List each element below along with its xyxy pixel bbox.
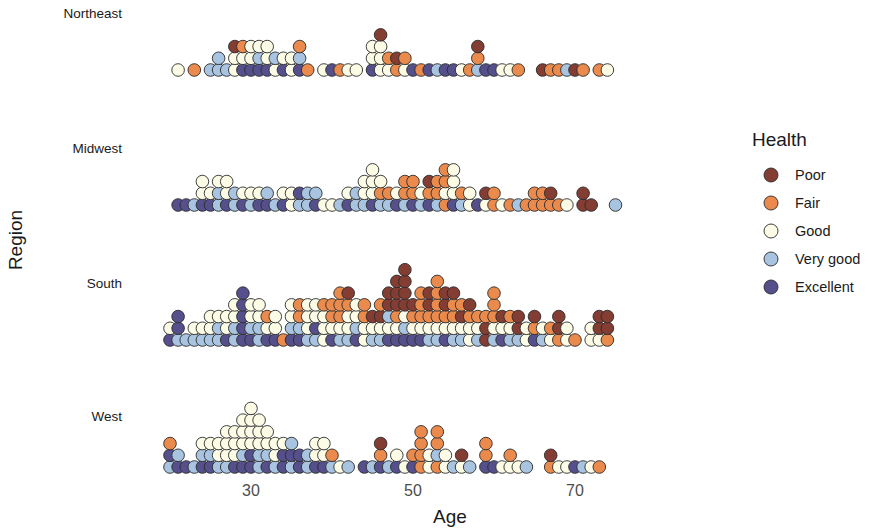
x-axis-title: Age [433, 506, 467, 527]
dot-mark [455, 449, 468, 462]
legend-label: Very good [795, 251, 860, 267]
x-axis-tick-labels: 305070 [242, 482, 584, 499]
legend-label: Fair [795, 195, 820, 211]
dot-mark [601, 310, 614, 323]
dot-mark [318, 437, 331, 450]
y-axis-tick-labels: NortheastMidwestSouthWest [63, 6, 122, 424]
dot-mark [447, 175, 460, 188]
dot-mark [439, 449, 452, 462]
dot-mark [374, 449, 387, 462]
dot-mark [172, 310, 185, 323]
legend-swatch-icon [764, 224, 778, 238]
dot-mark [528, 310, 541, 323]
dot-mark [463, 461, 476, 474]
dot-mark [415, 426, 428, 439]
dot-mark [561, 322, 574, 335]
dot-mark [399, 287, 412, 300]
legend-swatch-icon [764, 168, 778, 182]
dot-plot-chart: NortheastMidwestSouthWest 305070 Age Reg… [0, 0, 873, 531]
legend-item-very-good[interactable]: Very good [764, 251, 860, 267]
dot-mark [472, 52, 485, 65]
dot-mark [342, 287, 355, 300]
dot-mark [488, 287, 501, 300]
dot-mark [480, 449, 493, 462]
dot-mark [374, 40, 387, 53]
dot-stack-group-south [164, 263, 614, 346]
dot-mark [553, 310, 566, 323]
legend-label: Good [795, 223, 830, 239]
legend-items: PoorFairGoodVery goodExcellent [764, 167, 860, 295]
dot-mark [399, 52, 412, 65]
dot-mark [358, 299, 371, 312]
dot-mark [520, 461, 533, 474]
legend-swatch-icon [764, 280, 778, 294]
dot-mark [245, 402, 258, 415]
legend-swatch-icon [764, 196, 778, 210]
dot-mark [463, 187, 476, 200]
plot-canvas: NortheastMidwestSouthWest 305070 Age Reg… [0, 0, 873, 531]
dot-mark [374, 175, 387, 188]
dot-mark [447, 164, 460, 177]
x-tick-label-30: 30 [242, 482, 260, 499]
dot-mark [342, 461, 355, 474]
dot-mark [593, 461, 606, 474]
dot-mark [569, 334, 582, 347]
dot-mark [447, 287, 460, 300]
dot-mark [285, 437, 298, 450]
dot-mark [472, 40, 485, 53]
region-label-south: South [87, 276, 122, 291]
dot-mark [512, 64, 525, 77]
dot-mark [488, 187, 501, 200]
dot-mark [391, 449, 404, 462]
dot-mark [544, 187, 557, 200]
dot-mark [172, 449, 185, 462]
dot-mark [172, 322, 185, 335]
dot-mark [431, 426, 444, 439]
dot-mark [577, 64, 590, 77]
dot-mark [504, 449, 517, 462]
dot-stack-group-west [164, 402, 606, 473]
dot-mark [261, 187, 274, 200]
legend-item-fair[interactable]: Fair [764, 195, 820, 211]
legend-swatch-icon [764, 252, 778, 266]
dot-mark [301, 64, 314, 77]
dot-mark [609, 199, 622, 212]
legend-item-good[interactable]: Good [764, 223, 830, 239]
dot-mark [415, 437, 428, 450]
dot-mark [399, 275, 412, 288]
dot-mark [374, 29, 387, 42]
x-tick-label-50: 50 [404, 482, 422, 499]
dot-mark [512, 310, 525, 323]
dot-mark [350, 64, 363, 77]
dot-mark [431, 275, 444, 288]
dot-mark [585, 199, 598, 212]
region-label-west: West [91, 409, 122, 424]
dot-mark [253, 414, 266, 427]
dot-mark [293, 40, 306, 53]
dot-mark [399, 263, 412, 276]
dot-mark [269, 322, 282, 335]
x-tick-label-70: 70 [566, 482, 584, 499]
dot-mark [431, 437, 444, 450]
dot-mark [172, 64, 185, 77]
dot-stack-group-northeast [172, 29, 614, 77]
legend-title: Health [752, 129, 807, 150]
legend-item-poor[interactable]: Poor [764, 167, 826, 183]
dot-mark [253, 299, 266, 312]
legend-label: Excellent [795, 279, 854, 295]
dot-stack-group-midwest [172, 164, 622, 212]
legend-item-excellent[interactable]: Excellent [764, 279, 854, 295]
dot-mark [261, 426, 274, 439]
dot-mark [326, 449, 339, 462]
dot-mark [269, 310, 282, 323]
region-label-midwest: Midwest [72, 141, 122, 156]
region-label-northeast: Northeast [63, 6, 122, 21]
legend-label: Poor [795, 167, 826, 183]
dot-mark [544, 449, 557, 462]
dot-marks-layer [164, 29, 622, 474]
dot-mark [577, 187, 590, 200]
dot-mark [480, 437, 493, 450]
dot-mark [293, 52, 306, 65]
dot-mark [164, 437, 177, 450]
dot-mark [220, 175, 233, 188]
